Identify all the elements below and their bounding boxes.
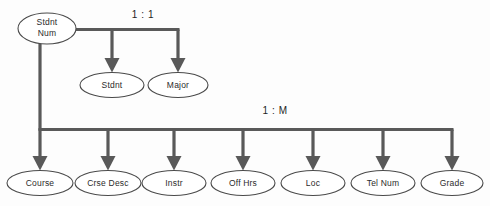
node-off-hrs[interactable]: Off Hrs <box>211 171 275 196</box>
node-stdnt-num-label-line1: Stdnt <box>37 17 58 27</box>
one-to-one-connector-group <box>76 30 186 73</box>
node-major[interactable]: Major <box>148 73 208 98</box>
arrowhead-tel-num <box>376 156 391 171</box>
node-tel-num-label: Tel Num <box>367 178 400 188</box>
node-course-label: Course <box>26 178 55 188</box>
diagram-canvas: 1 : 1 1 : M Stdnt Num Stdnt Major Course… <box>0 0 490 206</box>
node-tel-num[interactable]: Tel Num <box>351 171 415 196</box>
node-loc-label: Loc <box>306 178 321 188</box>
arrowhead-stdnt <box>105 58 120 73</box>
node-crse-desc-label: Crse Desc <box>87 178 129 188</box>
node-off-hrs-label: Off Hrs <box>229 178 257 188</box>
node-stdnt-num-label-line2: Num <box>38 28 57 38</box>
diagram-graphic: 1 : 1 1 : M Stdnt Num Stdnt Major Course… <box>0 0 490 206</box>
arrowhead-course <box>33 156 48 171</box>
node-grade-label: Grade <box>440 178 465 188</box>
arrowhead-instr <box>167 156 182 171</box>
node-instr[interactable]: Instr <box>142 171 206 196</box>
arrowhead-loc <box>306 156 321 171</box>
arrowhead-major <box>171 58 186 73</box>
arrowhead-off-hrs <box>236 156 251 171</box>
node-crse-desc[interactable]: Crse Desc <box>75 171 141 196</box>
node-stdnt[interactable]: Stdnt <box>80 73 144 98</box>
node-instr-label: Instr <box>165 178 183 188</box>
node-loc[interactable]: Loc <box>281 171 345 196</box>
node-course[interactable]: Course <box>7 171 73 196</box>
one-to-many-connector-group <box>33 130 460 171</box>
relationship-label-one-to-many: 1 : M <box>262 105 287 116</box>
node-stdnt-num[interactable]: Stdnt Num <box>18 13 76 44</box>
node-grade[interactable]: Grade <box>421 171 483 196</box>
arrowhead-crse-desc <box>101 156 116 171</box>
node-stdnt-label: Stdnt <box>102 80 123 90</box>
node-major-label: Major <box>167 80 189 90</box>
relationship-label-one-to-one: 1 : 1 <box>132 9 154 20</box>
arrowhead-grade <box>445 156 460 171</box>
